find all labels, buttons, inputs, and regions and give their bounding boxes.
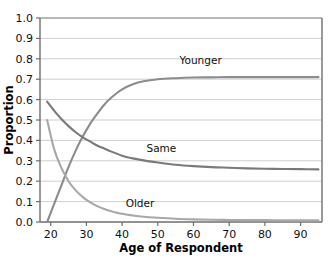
y-tick-label-0.1: 0.1 xyxy=(16,196,34,209)
x-axis-title: Age of Respondent xyxy=(119,241,243,255)
y-tick-label-0.5: 0.5 xyxy=(16,114,34,127)
y-tick-label-0.6: 0.6 xyxy=(16,94,34,107)
y-axis-title: Proportion xyxy=(2,85,16,154)
x-tick-label-60: 60 xyxy=(186,228,200,241)
y-tick-label-0.8: 0.8 xyxy=(16,53,34,66)
y-tick-label-1: 1.0 xyxy=(16,12,34,25)
y-tick-label-0.7: 0.7 xyxy=(16,73,34,86)
x-tick-label-20: 20 xyxy=(44,228,58,241)
y-tick-label-0.3: 0.3 xyxy=(16,155,34,168)
series-label-younger: Younger xyxy=(179,54,223,66)
x-tick-label-30: 30 xyxy=(79,228,93,241)
x-tick-label-50: 50 xyxy=(151,228,165,241)
x-tick-label-40: 40 xyxy=(115,228,129,241)
series-label-same: Same xyxy=(146,142,176,154)
y-tick-label-0.9: 0.9 xyxy=(16,32,34,45)
proportion-by-age-line-chart: 0.00.10.20.30.40.50.60.70.80.91.0 203040… xyxy=(0,0,330,261)
x-tick-label-90: 90 xyxy=(294,228,308,241)
y-tick-label-0.2: 0.2 xyxy=(16,175,34,188)
x-tick-label-80: 80 xyxy=(258,228,272,241)
y-tick-label-0: 0.0 xyxy=(16,216,34,229)
y-tick-label-0.4: 0.4 xyxy=(16,134,34,147)
chart-figure: 0.00.10.20.30.40.50.60.70.80.91.0 203040… xyxy=(0,0,330,261)
series-label-older: Older xyxy=(126,197,155,209)
x-tick-label-70: 70 xyxy=(222,228,236,241)
